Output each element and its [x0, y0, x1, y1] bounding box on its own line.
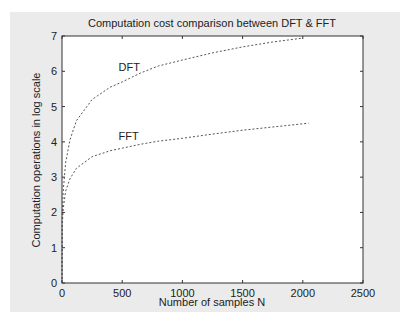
y-tick-label: 3 — [51, 171, 57, 183]
y-tick-label: 4 — [51, 136, 57, 148]
annotation-dft: DFT — [119, 61, 141, 73]
x-tick-label: 0 — [59, 287, 65, 299]
x-tick-label: 500 — [113, 287, 131, 299]
y-axis-label: Computation operations in log scale — [30, 73, 42, 248]
y-tick-label: 6 — [51, 65, 57, 77]
chart-title: Computation cost comparison between DFT … — [88, 17, 336, 29]
y-tick-label: 2 — [51, 206, 57, 218]
chart: Computation cost comparison between DFT … — [0, 0, 410, 324]
plot-area — [62, 36, 363, 283]
x-tick-label: 2000 — [291, 287, 315, 299]
x-axis-label: Number of samples N — [159, 296, 265, 308]
annotation-fft: FFT — [119, 130, 139, 142]
y-tick-label: 0 — [51, 277, 57, 289]
y-tick-label: 7 — [51, 30, 57, 42]
y-tick-label: 5 — [51, 101, 57, 113]
x-tick-label: 2500 — [351, 287, 375, 299]
y-tick-label: 1 — [51, 242, 57, 254]
